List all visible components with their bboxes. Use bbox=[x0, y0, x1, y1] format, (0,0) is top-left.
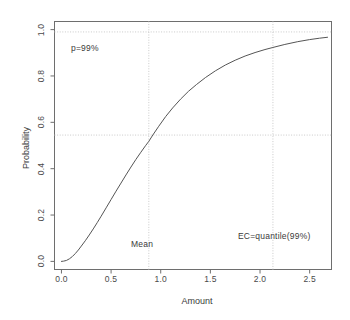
y-axis-title: Probability bbox=[21, 127, 31, 169]
p-level-annotation: p=99% bbox=[71, 43, 99, 53]
ec-quantile-annotation: EC=quantile(99%) bbox=[238, 231, 310, 241]
y-tick-label: 0.2 bbox=[36, 209, 46, 221]
x-axis-title: Amount bbox=[181, 296, 212, 306]
x-tick-label: 2.0 bbox=[254, 274, 266, 284]
y-tick-label: 1.0 bbox=[36, 23, 46, 35]
y-axis-ticks bbox=[51, 30, 55, 262]
x-tick-label: 1.5 bbox=[204, 274, 216, 284]
y-tick-label: 0.4 bbox=[36, 162, 46, 174]
x-tick-label: 2.5 bbox=[303, 274, 315, 284]
cdf-chart: 0.00.51.01.52.02.5 0.00.20.40.60.81.0 Am… bbox=[0, 0, 350, 320]
y-tick-label: 0.6 bbox=[36, 116, 46, 128]
plot-canvas bbox=[0, 0, 350, 320]
mean-annotation: Mean bbox=[131, 239, 153, 249]
y-tick-label: 0.8 bbox=[36, 70, 46, 82]
y-tick-label: 0.0 bbox=[36, 255, 46, 267]
x-axis-ticks bbox=[61, 270, 309, 274]
cdf-curve bbox=[61, 37, 327, 261]
x-tick-label: 0.0 bbox=[55, 274, 67, 284]
x-tick-label: 1.0 bbox=[155, 274, 167, 284]
x-tick-label: 0.5 bbox=[105, 274, 117, 284]
